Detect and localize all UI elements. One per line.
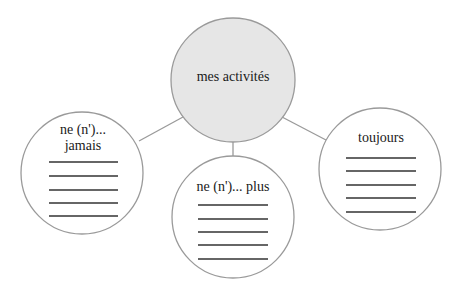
connector-left: [139, 117, 183, 141]
connector-right: [282, 117, 326, 140]
branch-circle-plus: [172, 156, 294, 278]
branch-label-jamais-line1: ne (n')...: [60, 122, 106, 138]
branch-label-toujours: toujours: [358, 130, 404, 146]
branch-label-jamais-line2: jamais: [65, 138, 102, 154]
branch-label-plus: ne (n')... plus: [197, 179, 270, 195]
center-label: mes activités: [197, 69, 270, 85]
